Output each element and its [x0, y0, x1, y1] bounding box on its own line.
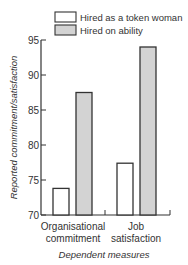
bars: [53, 47, 156, 215]
y-axis-title: Reported commitment/satisfaction: [8, 56, 19, 200]
bar-chart: Hired as a token womanHired on ability 7…: [0, 0, 188, 265]
x-category-label: commitment: [46, 233, 101, 244]
x-category-label: Organisational: [41, 221, 105, 232]
y-tick-label: 70: [28, 210, 40, 221]
x-axis-title: Dependent measures: [59, 249, 150, 260]
bar: [140, 47, 156, 215]
legend-swatch: [55, 25, 76, 35]
y-tick-label: 75: [28, 175, 40, 186]
x-category-label: satisfaction: [111, 233, 161, 244]
y-tick-label: 90: [28, 70, 40, 81]
legend-label: Hired as a token woman: [80, 12, 182, 23]
bar: [53, 188, 69, 215]
x-category-label: Job: [128, 221, 145, 232]
bar: [76, 93, 92, 216]
labels: OrganisationalcommitmentJobsatisfactionD…: [41, 221, 161, 260]
legend-label: Hired on ability: [80, 25, 143, 36]
y-tick-label: 95: [28, 35, 40, 46]
legend-swatch: [55, 12, 76, 22]
y-tick-label: 85: [28, 105, 40, 116]
y-tick-label: 80: [28, 140, 40, 151]
legend: Hired as a token womanHired on ability: [55, 12, 182, 36]
bar: [117, 163, 133, 215]
